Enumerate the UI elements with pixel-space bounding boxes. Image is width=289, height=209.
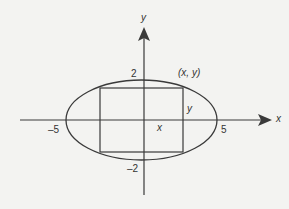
ellipse-inscribed-rectangle-diagram: y x 2 –2 –5 5 (x, y) y x: [0, 0, 289, 209]
diagram-graphics: [0, 0, 289, 209]
y-axis-label: y: [141, 13, 146, 23]
x-tick-5: 5: [221, 125, 227, 135]
x-tick-neg5: –5: [48, 125, 59, 135]
half-height-label: y: [187, 104, 192, 114]
y-tick-neg2: –2: [127, 164, 138, 174]
y-tick-2: 2: [131, 69, 137, 79]
half-width-label: x: [157, 123, 162, 133]
x-axis-label: x: [276, 114, 281, 124]
corner-point-label: (x, y): [178, 68, 200, 78]
